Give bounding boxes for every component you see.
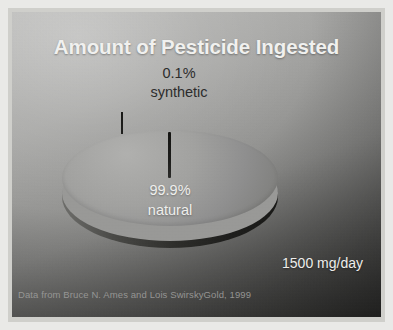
natural-percent-value: 99.9%	[75, 180, 265, 200]
presentation-slide: Amount of Pesticide Ingested 0.1% synthe…	[12, 12, 381, 317]
synthetic-percent-value: 0.1%	[119, 64, 239, 83]
synthetic-callout-label: 0.1% synthetic	[119, 64, 239, 102]
photographed-page: Amount of Pesticide Ingested 0.1% synthe…	[0, 0, 393, 330]
synthetic-category-name: synthetic	[119, 83, 239, 102]
total-dose-annotation: 1500 mg/day	[282, 255, 363, 271]
source-credit: Data from Bruce N. Ames and Lois Swirsky…	[18, 289, 251, 300]
page-title: Amount of Pesticide Ingested	[12, 35, 381, 59]
callout-leader-line	[121, 112, 123, 134]
pie-slice-synthetic	[168, 132, 171, 178]
natural-slice-label: 99.9% natural	[75, 180, 265, 220]
natural-category-name: natural	[75, 200, 265, 220]
pie-chart: 99.9% natural	[62, 130, 332, 260]
